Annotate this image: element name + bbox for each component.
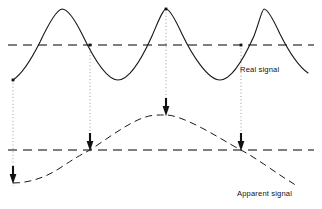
sample-point-marker-1 <box>12 79 15 82</box>
real-signal-label: Real signal <box>240 65 279 74</box>
sample-point-marker-2 <box>89 44 92 47</box>
sample-point-marker-4 <box>240 44 243 47</box>
figure-background <box>0 0 322 209</box>
aliasing-figure: Real signal Apparent signal <box>0 0 322 209</box>
apparent-signal-label: Apparent signal <box>237 189 292 198</box>
figure-canvas: Real signal Apparent signal <box>0 0 322 209</box>
sample-point-marker-3 <box>165 8 168 11</box>
